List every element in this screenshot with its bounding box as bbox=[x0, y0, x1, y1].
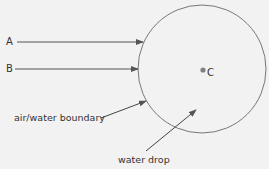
boundary-pointer-arrow bbox=[101, 101, 146, 118]
label-b: B bbox=[6, 64, 13, 74]
label-a: A bbox=[6, 37, 13, 47]
label-water-drop: water drop bbox=[118, 155, 170, 165]
label-air-water-boundary: air/water boundary bbox=[14, 113, 105, 123]
label-c: C bbox=[207, 68, 214, 78]
center-dot-c bbox=[200, 67, 205, 72]
drop-pointer-arrow bbox=[146, 110, 196, 151]
diagram-canvas bbox=[0, 0, 269, 169]
